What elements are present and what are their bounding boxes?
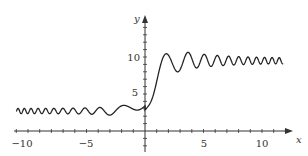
y-axis-arrow-icon bbox=[142, 15, 148, 23]
y-tick-label-10: 10 bbox=[127, 52, 140, 63]
axes bbox=[14, 15, 293, 152]
x-tick-label-neg5: −5 bbox=[79, 138, 94, 149]
x-axis-arrow-icon bbox=[285, 128, 293, 134]
chart: −10 −5 5 10 10 5 x y bbox=[0, 0, 308, 156]
x-tick-label-neg10: −10 bbox=[11, 138, 32, 149]
y-axis-label: y bbox=[133, 13, 140, 24]
x-tick-label-5: 5 bbox=[201, 138, 207, 149]
function-curve bbox=[16, 52, 283, 115]
x-axis-label: x bbox=[296, 134, 302, 145]
x-tick-label-10: 10 bbox=[256, 138, 269, 149]
y-tick-label-5: 5 bbox=[132, 87, 138, 98]
